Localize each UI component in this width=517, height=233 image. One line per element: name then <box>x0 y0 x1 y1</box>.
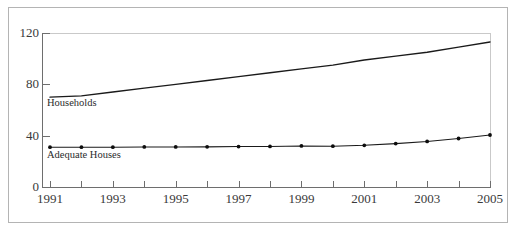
series-label-households: Households <box>47 97 97 108</box>
data-point-marker <box>394 142 398 146</box>
chart-figure: 04080120 1991199319951997199920012003200… <box>0 0 517 233</box>
data-point-marker <box>457 137 461 141</box>
series-lines-layer <box>0 0 517 233</box>
series-line-households <box>50 42 490 97</box>
data-point-marker <box>142 145 146 149</box>
data-point-marker <box>300 144 304 148</box>
data-point-marker <box>362 143 366 147</box>
data-point-marker <box>174 145 178 149</box>
data-point-marker <box>331 144 335 148</box>
data-point-marker <box>268 145 272 149</box>
series-label-adequate-houses: Adequate Houses <box>47 149 121 160</box>
data-point-marker <box>488 133 492 137</box>
data-point-marker <box>205 145 209 149</box>
series-markers-adequate-houses <box>48 133 492 149</box>
data-point-marker <box>425 140 429 144</box>
data-point-marker <box>237 145 241 149</box>
